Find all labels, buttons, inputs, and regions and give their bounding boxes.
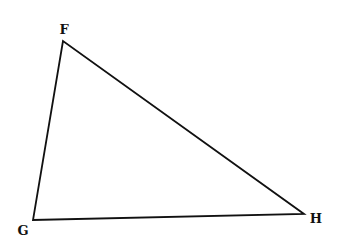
triangle-diagram: F G H <box>0 0 338 250</box>
vertex-label-h: H <box>310 211 322 226</box>
vertex-label-f: F <box>59 22 69 37</box>
vertex-label-g: G <box>17 223 28 238</box>
triangle-fgh <box>33 41 304 220</box>
